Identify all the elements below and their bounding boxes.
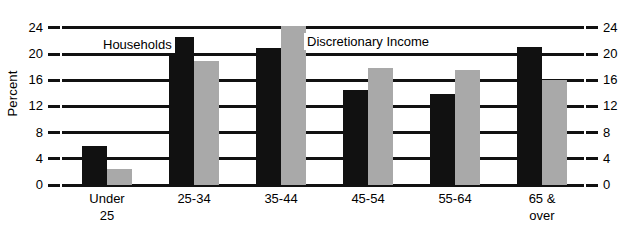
tick-mark-left-4	[48, 157, 60, 160]
tick-mark-left-24	[48, 26, 60, 29]
y-tick-label-left-12: 12	[29, 99, 43, 112]
y-tick-label-left-16: 16	[29, 73, 43, 86]
tick-mark-right-16	[586, 79, 598, 82]
tick-mark-right-4	[586, 157, 598, 160]
tick-mark-right-8	[586, 131, 598, 134]
x-tick-label-65-&-over: 65 & over	[497, 190, 587, 224]
x-tick-label-45-54: 45-54	[323, 190, 413, 207]
y-tick-label-left-24: 24	[29, 21, 43, 34]
y-tick-label-right-24: 24	[603, 21, 617, 34]
bar-households-65-&-over	[517, 47, 542, 185]
x-tick-label-55-64: 55-64	[410, 190, 500, 207]
tick-mark-left-0	[48, 184, 60, 187]
y-tick-label-left-4: 4	[36, 152, 43, 165]
y-tick-label-right-16: 16	[603, 73, 617, 86]
y-tick-label-right-4: 4	[603, 152, 610, 165]
x-tick-label-35-44: 35-44	[236, 190, 326, 207]
tick-mark-left-20	[48, 53, 60, 56]
bar-households-35-44	[256, 48, 281, 185]
bar-households-45-54	[343, 90, 368, 185]
tick-mark-right-12	[586, 105, 598, 108]
tick-mark-left-8	[48, 131, 60, 134]
bar-households-25-34	[169, 37, 194, 185]
y-tick-label-right-8: 8	[603, 126, 610, 139]
tick-mark-left-16	[48, 79, 60, 82]
y-tick-label-left-0: 0	[36, 178, 43, 191]
y-tick-label-right-20: 20	[603, 47, 617, 60]
tick-mark-right-20	[586, 53, 598, 56]
y-tick-label-right-12: 12	[603, 99, 617, 112]
bar-discretionary-income-35-44	[281, 26, 306, 185]
bar-discretionary-income-25-34	[194, 61, 219, 185]
legend-label-discretionary-income: Discretionary Income	[304, 33, 432, 50]
y-tick-label-left-20: 20	[29, 47, 43, 60]
y-tick-label-right-0: 0	[603, 178, 610, 191]
bar-households-under-25	[82, 146, 107, 185]
bar-discretionary-income-65-&-over	[542, 80, 567, 185]
tick-mark-left-12	[48, 105, 60, 108]
y-axis-title: Percent	[5, 58, 20, 130]
tick-mark-right-24	[586, 26, 598, 29]
bar-discretionary-income-55-64	[455, 70, 480, 185]
bar-discretionary-income-under-25	[107, 169, 132, 185]
tick-mark-right-0	[586, 184, 598, 187]
x-tick-label-25-34: 25-34	[149, 190, 239, 207]
y-tick-label-left-8: 8	[36, 126, 43, 139]
x-tick-label-under-25: Under 25	[62, 190, 152, 224]
bar-discretionary-income-45-54	[368, 68, 393, 185]
bar-households-55-64	[430, 94, 455, 185]
x-axis-category-labels: Under 2525-3435-4445-5455-6465 & over	[62, 190, 584, 236]
legend-label-households: Households	[100, 36, 175, 53]
bar-chart: Percent 0044881212161620202424 Under 252…	[0, 0, 639, 238]
